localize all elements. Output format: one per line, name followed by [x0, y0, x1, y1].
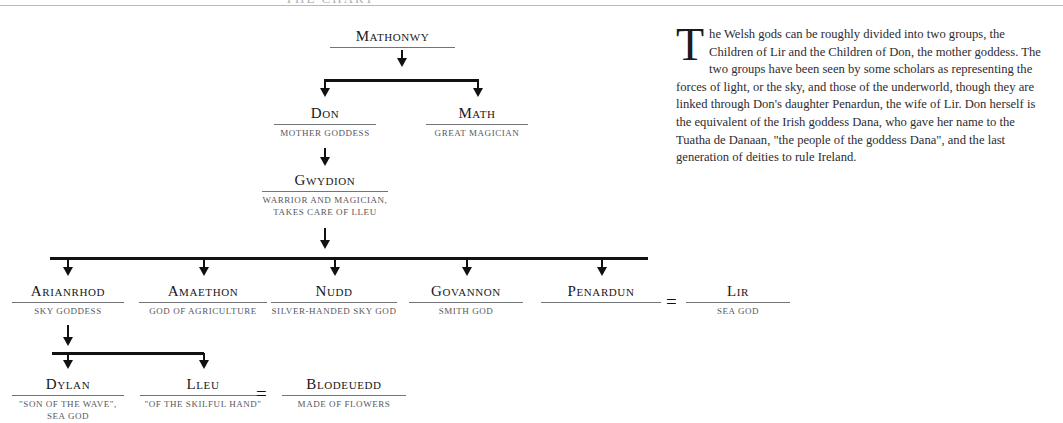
node-gwydion[interactable]: Gwydion WARRIOR AND MAGICIAN, TAKES CARE… [262, 172, 388, 218]
node-govannon-rule [409, 302, 523, 303]
node-arianrhod[interactable]: Arianrhod SKY GODDESS [12, 283, 124, 318]
node-amaethon-desc: GOD OF AGRICULTURE [139, 306, 267, 318]
arrow-to-amaethon [199, 267, 209, 276]
node-don-desc: MOTHER GODDESS [274, 128, 376, 140]
node-amaethon-rule [139, 302, 267, 303]
node-gwydion-name: Gwydion [262, 172, 388, 189]
node-nudd-desc: SILVER-HANDED SKY GOD [271, 306, 397, 318]
node-penardun-name: Penardun [541, 283, 661, 300]
node-gwydion-rule [262, 191, 388, 192]
arrow-to-penardun [597, 267, 607, 276]
node-blodeuedd-desc: MADE OF FLOWERS [282, 399, 406, 411]
node-blodeuedd-name: Blodeuedd [282, 376, 406, 393]
marriage-equals-lleu-blodeuedd: = [256, 384, 267, 403]
node-mathonwy-rule [330, 47, 455, 48]
node-mathonwy[interactable]: Mathonwy [330, 28, 455, 48]
node-mathonwy-name: Mathonwy [330, 28, 455, 45]
node-lir-rule [686, 302, 790, 303]
node-math-rule [426, 124, 528, 125]
node-don[interactable]: Don MOTHER GODDESS [274, 105, 376, 140]
node-don-rule [274, 124, 376, 125]
node-arianrhod-desc: SKY GODDESS [12, 306, 124, 318]
arrow-to-nudd [330, 267, 340, 276]
node-penardun-rule [541, 302, 661, 303]
node-math-desc: GREAT MAGICIAN [426, 128, 528, 140]
node-govannon-desc: SMITH GOD [409, 306, 523, 318]
genealogy-chart: Mathonwy Don MOTHER GODDESS Math GREAT M… [0, 0, 662, 423]
article-body-text: he Welsh gods can be roughly divided int… [676, 27, 1041, 164]
connector-bar-gwydion-children [50, 257, 648, 260]
node-amaethon[interactable]: Amaethon GOD OF AGRICULTURE [139, 283, 267, 318]
node-nudd[interactable]: Nudd SILVER-HANDED SKY GOD [271, 283, 397, 318]
arrow-to-math [473, 88, 483, 97]
arrow-arianrhod-down [63, 337, 73, 346]
node-lleu-name: Lleu [140, 376, 266, 393]
node-dylan-desc: "SON OF THE WAVE", SEA GOD [12, 399, 124, 422]
node-lleu[interactable]: Lleu "OF THE SKILFUL HAND" [140, 376, 266, 411]
node-govannon[interactable]: Govannon SMITH GOD [409, 283, 523, 318]
node-gwydion-desc: WARRIOR AND MAGICIAN, TAKES CARE OF LLEU [262, 195, 388, 218]
connector-bar-arianrhod-children [52, 352, 204, 355]
node-govannon-name: Govannon [409, 283, 523, 300]
node-arianrhod-rule [12, 302, 124, 303]
arrow-gwydion-down [320, 240, 330, 249]
arrow-to-dylan [63, 360, 73, 369]
node-blodeuedd[interactable]: Blodeuedd MADE OF FLOWERS [282, 376, 406, 411]
marriage-equals-penardun-lir: = [666, 292, 677, 311]
arrow-to-govannon [462, 267, 472, 276]
connector-bar-mathonwy-children [324, 79, 479, 82]
node-don-name: Don [274, 105, 376, 122]
node-nudd-rule [271, 302, 397, 303]
arrow-to-arianrhod [63, 267, 73, 276]
node-dylan-rule [12, 395, 124, 396]
article-body: The Welsh gods can be roughly divided in… [676, 26, 1052, 167]
node-lir[interactable]: Lir SEA GOD [686, 283, 790, 318]
arrow-to-lleu [199, 360, 209, 369]
arrow-mathonwy-down [397, 58, 407, 67]
node-math-name: Math [426, 105, 528, 122]
arrow-to-gwydion [320, 157, 330, 166]
node-nudd-name: Nudd [271, 283, 397, 300]
article-dropcap: T [676, 27, 709, 63]
node-penardun[interactable]: Penardun [541, 283, 661, 303]
node-dylan[interactable]: Dylan "SON OF THE WAVE", SEA GOD [12, 376, 124, 422]
node-blodeuedd-rule [282, 395, 406, 396]
node-lir-desc: SEA GOD [686, 306, 790, 318]
node-lir-name: Lir [686, 283, 790, 300]
arrow-to-don [320, 88, 330, 97]
node-math[interactable]: Math GREAT MAGICIAN [426, 105, 528, 140]
node-arianrhod-name: Arianrhod [12, 283, 124, 300]
node-dylan-name: Dylan [12, 376, 124, 393]
node-amaethon-name: Amaethon [139, 283, 267, 300]
article-column: The Welsh gods can be roughly divided in… [676, 26, 1052, 167]
node-lleu-rule [140, 395, 266, 396]
node-lleu-desc: "OF THE SKILFUL HAND" [140, 399, 266, 411]
